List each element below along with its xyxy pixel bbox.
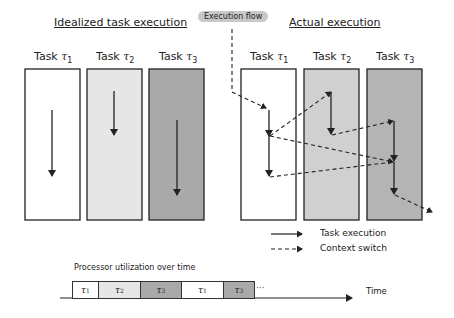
ideal-title: Idealized task execution xyxy=(54,16,187,29)
task-word: Task xyxy=(313,50,337,63)
task-index: 1 xyxy=(67,56,72,65)
task-index: 2 xyxy=(346,56,351,65)
segment-index: 1 xyxy=(86,287,90,294)
ideal-task3-label: Task τ3 xyxy=(159,50,197,65)
timeline-segment-tau3-b: τ3 xyxy=(223,281,255,299)
timeline-ellipsis: ··· xyxy=(256,283,265,293)
segment-index: 2 xyxy=(120,287,124,294)
ideal-task2-label: Task τ2 xyxy=(96,50,134,65)
task-index: 3 xyxy=(409,56,414,65)
task-word: Task xyxy=(250,50,274,63)
legend-context-switch: Context switch xyxy=(320,243,387,253)
actual-title: Actual execution xyxy=(289,16,381,29)
timeline-segment-tau3: τ3 xyxy=(140,281,182,299)
actual-task2-label: Task τ2 xyxy=(313,50,351,65)
timeline-segment-tau1-b: τ1 xyxy=(181,281,224,299)
task-index: 3 xyxy=(192,56,197,65)
actual-task-boxes xyxy=(241,69,422,220)
actual-task1-label: Task τ1 xyxy=(250,50,288,65)
legend-task-execution: Task execution xyxy=(320,228,386,238)
timeline-segment-tau2: τ2 xyxy=(98,281,141,299)
actual-task3-label: Task τ3 xyxy=(376,50,414,65)
execution-flow-label: Execution flow xyxy=(198,11,268,22)
segment-index: 1 xyxy=(203,287,207,294)
task-word: Task xyxy=(34,50,58,63)
task-word: Task xyxy=(376,50,400,63)
diagram-canvas xyxy=(0,0,454,318)
task-word: Task xyxy=(159,50,183,63)
segment-index: 3 xyxy=(162,287,166,294)
timeline-segment-tau1: τ1 xyxy=(72,281,99,299)
legend-lines xyxy=(271,234,302,249)
task-index: 1 xyxy=(283,56,288,65)
task-index: 2 xyxy=(129,56,134,65)
segment-index: 3 xyxy=(240,287,244,294)
time-axis-label: Time xyxy=(366,286,387,296)
ideal-task1-label: Task τ1 xyxy=(34,50,72,65)
task-word: Task xyxy=(96,50,120,63)
timeline-title: Processor utilization over time xyxy=(74,263,195,272)
